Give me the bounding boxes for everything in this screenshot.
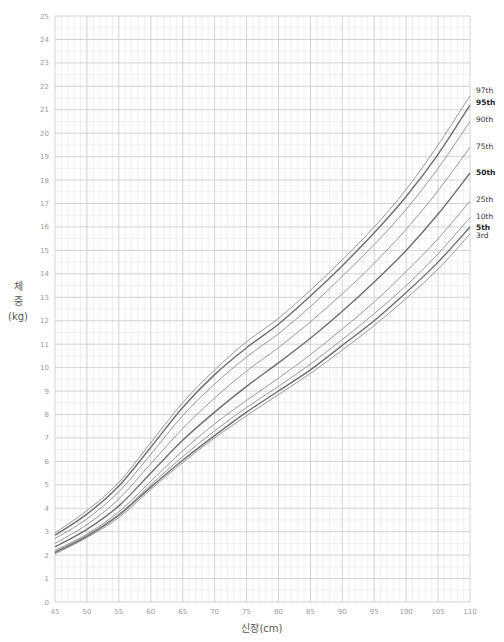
x-tick-label: 70 — [210, 608, 219, 616]
percentile-label-3rd: 3rd — [476, 231, 489, 240]
percentile-label-95th: 95th — [476, 98, 495, 107]
y-tick-label: 16 — [40, 223, 49, 231]
y-axis-ticks: 0123456789101112131415161718192021222324… — [40, 13, 49, 607]
percentile-label-50th: 50th — [476, 168, 495, 177]
percentile-label-75th: 75th — [476, 142, 493, 151]
percentile-curve-10th — [55, 218, 470, 552]
x-tick-label: 110 — [463, 608, 476, 616]
percentile-label-10th: 10th — [476, 212, 493, 221]
y-tick-label: 23 — [40, 59, 49, 67]
y-tick-label: 14 — [40, 270, 49, 278]
percentile-label-25th: 25th — [476, 195, 493, 204]
y-tick-label: 19 — [40, 153, 49, 161]
y-tick-label: 1 — [45, 575, 49, 583]
y-tick-label: 18 — [40, 177, 49, 185]
y-tick-label: 15 — [40, 247, 49, 255]
x-tick-label: 65 — [178, 608, 187, 616]
percentile-curves — [55, 96, 470, 554]
y-tick-label: 0 — [45, 599, 49, 607]
x-tick-label: 95 — [370, 608, 379, 616]
y-tick-label: 11 — [40, 341, 49, 349]
x-tick-label: 85 — [306, 608, 315, 616]
y-tick-label: 17 — [40, 200, 49, 208]
y-tick-label: 9 — [45, 388, 49, 396]
x-tick-label: 105 — [431, 608, 444, 616]
x-axis-ticks: 4550556065707580859095100105110 — [51, 608, 477, 616]
y-tick-label: 2 — [45, 552, 49, 560]
y-tick-label: 21 — [40, 106, 49, 114]
y-tick-label: 6 — [45, 458, 50, 466]
x-tick-label: 55 — [114, 608, 123, 616]
y-axis-title-line-2: 중 — [14, 296, 23, 307]
percentile-curve-95th — [55, 105, 470, 535]
y-axis-title-line-3: (kg) — [8, 311, 28, 322]
y-tick-label: 3 — [45, 528, 49, 536]
percentile-curve-3rd — [55, 234, 470, 554]
y-axis-title: 체 중 (kg) — [8, 281, 28, 322]
x-tick-label: 60 — [146, 608, 155, 616]
growth-chart: 0123456789101112131415161718192021222324… — [0, 0, 504, 642]
y-tick-label: 12 — [40, 317, 49, 325]
percentile-curve-5th — [55, 227, 470, 553]
x-tick-label: 50 — [82, 608, 91, 616]
chart-grid — [55, 16, 470, 602]
percentile-curve-25th — [55, 201, 470, 550]
y-tick-label: 8 — [45, 411, 49, 419]
x-tick-label: 45 — [51, 608, 60, 616]
y-tick-label: 25 — [40, 13, 49, 21]
percentile-label-97th: 97th — [476, 86, 493, 95]
percentile-curve-50th — [55, 173, 470, 547]
y-tick-label: 24 — [40, 36, 49, 44]
y-tick-label: 4 — [45, 505, 50, 513]
percentile-curve-97th — [55, 96, 470, 533]
y-tick-label: 20 — [40, 130, 49, 138]
y-axis-title-line-1: 체 — [14, 281, 23, 292]
y-tick-label: 13 — [40, 294, 49, 302]
x-tick-label: 90 — [338, 608, 347, 616]
y-tick-label: 5 — [45, 481, 49, 489]
percentile-labels: 97th95th90th75th50th25th10th5th3rd — [476, 86, 495, 240]
x-tick-label: 75 — [242, 608, 251, 616]
y-tick-label: 7 — [45, 434, 49, 442]
y-tick-label: 10 — [40, 364, 49, 372]
percentile-label-90th: 90th — [476, 115, 493, 124]
x-tick-label: 80 — [274, 608, 283, 616]
x-axis-title: 신장(cm) — [241, 623, 282, 634]
y-tick-label: 22 — [40, 83, 49, 91]
x-tick-label: 100 — [399, 608, 412, 616]
